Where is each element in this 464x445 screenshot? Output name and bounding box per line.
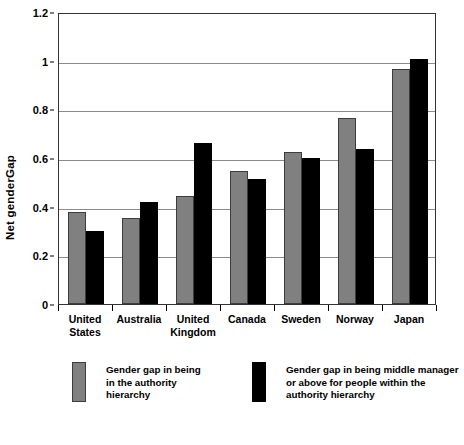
bar-group xyxy=(113,14,167,304)
bar xyxy=(356,149,374,304)
bar xyxy=(122,218,140,304)
bar xyxy=(140,202,158,304)
bar-group xyxy=(383,14,437,304)
bar xyxy=(230,171,248,304)
bar xyxy=(410,59,428,304)
y-tick-mark xyxy=(50,61,54,62)
x-axis-tick-marks xyxy=(58,305,436,311)
bar-group xyxy=(59,14,113,304)
y-tick-label: 0 xyxy=(42,299,48,311)
black-swatch-icon xyxy=(252,362,266,402)
y-tick-label: 1 xyxy=(42,56,48,68)
bar xyxy=(176,196,194,304)
y-tick-mark xyxy=(50,13,54,14)
x-tick-mark xyxy=(166,305,167,311)
y-tick-mark xyxy=(50,305,54,306)
bar xyxy=(248,179,266,304)
x-tick-mark xyxy=(220,305,221,311)
x-tick-mark xyxy=(436,305,437,311)
x-tick-mark xyxy=(58,305,59,311)
legend-label-series-a: Gender gap in being in the authority hie… xyxy=(106,364,256,402)
bar-group xyxy=(221,14,275,304)
bar-group xyxy=(329,14,383,304)
y-tick-mark xyxy=(50,207,54,208)
plot-area xyxy=(58,13,436,305)
bars-layer xyxy=(59,14,435,304)
y-tick-label: 0.4 xyxy=(33,202,48,214)
y-tick-label: 1.2 xyxy=(33,7,48,19)
x-tick-mark xyxy=(328,305,329,311)
y-tick-label: 0.2 xyxy=(33,250,48,262)
legend-label-series-b: Gender gap in being middle manager or ab… xyxy=(286,364,464,402)
bar xyxy=(392,69,410,304)
y-tick-label: 0.8 xyxy=(33,104,48,116)
grey-swatch-icon xyxy=(72,362,86,402)
x-tick-mark xyxy=(274,305,275,311)
bar xyxy=(68,212,86,304)
bar-group xyxy=(275,14,329,304)
x-tick-mark xyxy=(112,305,113,311)
chart-legend: Gender gap in being in the authority hie… xyxy=(0,362,446,422)
y-tick-label: 0.6 xyxy=(33,153,48,165)
bar xyxy=(302,158,320,304)
bar xyxy=(284,152,302,304)
bar xyxy=(86,231,104,304)
x-axis-label: Japan xyxy=(370,313,448,326)
y-tick-mark xyxy=(50,159,54,160)
x-axis-category-labels: United StatesAustraliaUnited KingdomCana… xyxy=(58,313,436,349)
y-axis-tick-labels: 00.20.40.60.811.2 xyxy=(20,13,54,305)
x-tick-mark xyxy=(382,305,383,311)
y-tick-mark xyxy=(50,256,54,257)
bar-group xyxy=(167,14,221,304)
y-tick-mark xyxy=(50,110,54,111)
bar xyxy=(338,118,356,304)
bar xyxy=(194,143,212,304)
